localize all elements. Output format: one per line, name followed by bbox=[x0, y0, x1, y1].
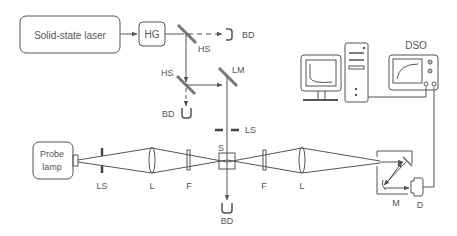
lens-2 bbox=[299, 147, 305, 173]
l1-label: L bbox=[149, 181, 154, 191]
computer-tower bbox=[345, 43, 368, 102]
beam-dump-2 bbox=[182, 108, 191, 118]
f2-label: F bbox=[261, 181, 267, 191]
lens-1 bbox=[149, 147, 155, 173]
l2-label: L bbox=[299, 181, 304, 191]
computer-monitor bbox=[301, 55, 341, 100]
bd2-label: BD bbox=[162, 109, 175, 119]
oscilloscope: DSO bbox=[389, 40, 438, 90]
dso-rise-curve bbox=[397, 64, 418, 79]
harmonic-generator: HG bbox=[139, 22, 165, 46]
monitor-decay-curve bbox=[310, 64, 332, 83]
hg-label: HG bbox=[145, 29, 160, 40]
optical-setup-diagram: Solid-state laser HG HS BD HS BD LM LS B… bbox=[0, 0, 457, 236]
monochromator: M bbox=[377, 151, 412, 208]
beam-dump-3 bbox=[222, 203, 232, 213]
probe-label-line2: lamp bbox=[42, 162, 62, 172]
d-label: D bbox=[417, 200, 424, 210]
lm-label: LM bbox=[232, 65, 245, 75]
beam-dump-1 bbox=[226, 29, 232, 40]
probe-label-line1: Probe bbox=[40, 149, 64, 159]
hs1-label: HS bbox=[198, 44, 211, 54]
f1-label: F bbox=[186, 181, 192, 191]
hs2-label: HS bbox=[161, 68, 174, 78]
cable-detector-dso bbox=[423, 87, 434, 187]
laser-label: Solid-state laser bbox=[34, 30, 106, 41]
bd1-label: BD bbox=[242, 30, 255, 40]
ls-horiz-label: LS bbox=[96, 181, 107, 191]
bd3-label: BD bbox=[221, 216, 234, 226]
detector bbox=[411, 178, 423, 196]
s-label: S bbox=[218, 143, 224, 153]
m-label: M bbox=[392, 198, 400, 208]
solid-state-laser: Solid-state laser bbox=[20, 16, 120, 53]
dso-label: DSO bbox=[405, 40, 427, 51]
probe-lamp: Probe lamp bbox=[33, 142, 78, 179]
ls-vert-label: LS bbox=[245, 125, 256, 135]
